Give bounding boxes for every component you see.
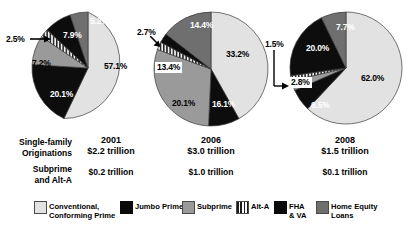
pie-2008-label-heloan: 7.7% — [336, 23, 355, 32]
pie-2006-fha-leader-arrow — [150, 36, 164, 50]
legend-item-fha: FHA & VA — [274, 201, 307, 220]
legend-swatch-subprime-icon — [182, 201, 195, 214]
row-label-originations-line2: Originations — [0, 148, 72, 159]
row-label-subprime-alta: Subprime and Alt-A — [0, 164, 72, 185]
caption-2001-year: 2001 — [74, 135, 148, 146]
caption-2008-year: 2008 — [308, 135, 382, 146]
pie-2006-label-subprime: 20.1% — [172, 99, 195, 108]
pie-2001-label-heloan: 5.2% — [90, 17, 109, 26]
legend-swatch-jumbo-icon — [120, 201, 133, 214]
chart-canvas: 57.1% 20.1% 7.2% 7.9% 5.2% 2.5% — [0, 0, 410, 233]
row-label-subprime-alta-line1: Subprime — [0, 164, 72, 175]
pie-2006-label-jumbo: 16.1% — [212, 100, 235, 109]
pie-chart-2001: 57.1% 20.1% 7.2% 7.9% 5.2% — [28, 6, 148, 132]
pie-2008-label-jumbo: 6.5% — [311, 101, 330, 110]
pie-chart-2006: 33.2% 16.1% 20.1% 13.4% 14.4% — [150, 6, 272, 134]
legend-label-fha: FHA & VA — [289, 201, 307, 220]
legend-item-jumbo: Jumbo Prime — [120, 201, 183, 214]
pie-2001-label-alta: 2.5% — [6, 35, 25, 44]
row-label-originations-line1: Single-family — [0, 137, 72, 148]
legend-item-conventional: Conventional, Conforming Prime — [34, 201, 115, 220]
caption-2006-year: 2006 — [174, 135, 248, 146]
caption-2006: 2006 $3.0 trillion — [174, 135, 248, 158]
legend-swatch-conventional-icon — [34, 201, 47, 214]
legend-label-subprime: Subprime — [197, 201, 232, 211]
pie-chart-2008: 62.0% 6.5% 2.8% 20.0% 7.7% — [287, 6, 405, 132]
pie-2008-label-fha: 20.0% — [306, 44, 329, 53]
legend-label-alta: Alt-A — [251, 201, 269, 211]
pie-2006-label-conventional: 33.2% — [226, 50, 249, 59]
pie-2008-label-alta: 1.5% — [265, 40, 284, 49]
legend-item-subprime: Subprime — [182, 201, 232, 214]
pie-2001-label-conventional: 57.1% — [104, 62, 127, 71]
pie-2006-label-alta: 13.4% — [155, 62, 182, 73]
caption-2006-subprime: $1.0 trillion — [174, 167, 248, 178]
caption-2008-originations: $1.5 trillion — [308, 146, 382, 157]
row-label-subprime-alta-line2: and Alt-A — [0, 175, 72, 186]
caption-2001: 2001 $2.2 trillion — [74, 135, 148, 158]
pie-2001-graphic — [28, 6, 148, 136]
caption-2008: 2008 $1.5 trillion — [308, 135, 382, 158]
legend-swatch-heloan-icon — [316, 201, 329, 214]
pie-2001-label-fha: 7.9% — [63, 31, 82, 40]
pie-2001-label-subprime: 7.2% — [32, 59, 51, 68]
chart-legend: Conventional, Conforming Prime Jumbo Pri… — [0, 198, 410, 230]
caption-2006-originations: $3.0 trillion — [174, 146, 248, 157]
pie-2008-alta-leader-arrow — [270, 50, 296, 94]
caption-2008-subprime: $0.1 trillion — [308, 167, 382, 178]
pie-2001-svg — [28, 6, 148, 132]
legend-label-heloan: Home Equity Loans — [331, 201, 377, 220]
row-label-originations: Single-family Originations — [0, 137, 72, 158]
pie-2001-alta-leader-arrow — [30, 33, 52, 45]
caption-2001-originations: $2.2 trillion — [74, 146, 148, 157]
legend-swatch-alta-icon — [236, 201, 249, 214]
legend-item-alta: Alt-A — [236, 201, 269, 214]
pie-2006-label-heloan: 14.4% — [190, 21, 213, 30]
legend-item-heloan: Home Equity Loans — [316, 201, 377, 220]
pie-2001-label-jumbo: 20.1% — [50, 90, 73, 99]
legend-label-conventional: Conventional, Conforming Prime — [49, 201, 115, 220]
caption-2001-subprime: $0.2 trillion — [74, 167, 148, 178]
pie-2008-label-conventional: 62.0% — [361, 74, 384, 83]
legend-label-jumbo: Jumbo Prime — [135, 201, 183, 211]
legend-swatch-fha-icon — [274, 201, 287, 214]
